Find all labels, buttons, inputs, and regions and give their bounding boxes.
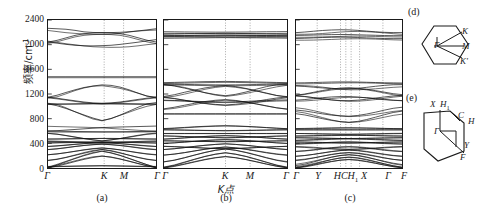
band-curve <box>296 150 402 156</box>
band-curve <box>48 143 156 147</box>
band-curve <box>48 30 156 34</box>
band-curve <box>48 28 156 32</box>
panel-b-xtick-gamma-right: Γ <box>283 170 289 181</box>
inset-e-point-c: C <box>458 110 464 120</box>
inset-e-point-h: H <box>468 116 475 126</box>
panel-a-plot <box>47 19 157 169</box>
panel-c-svg <box>296 20 402 168</box>
phonon-band-structure-figure: 频率/cm-1 2400 2000 1600 1200 800 400 0 Γ … <box>0 0 488 221</box>
y-tick-800: 800 <box>30 114 44 124</box>
band-curve <box>48 97 156 103</box>
band-curve <box>48 151 156 167</box>
inset-e-svg <box>420 105 480 169</box>
panel-c-xtick-y: Y <box>315 170 321 181</box>
panel-b-svg <box>164 20 287 168</box>
path-gamma-to-f <box>440 131 464 153</box>
band-curve <box>48 103 156 121</box>
panel-c-xtick-gamma-right: Γ <box>385 170 391 181</box>
inset-e-brillouin-zone <box>420 105 480 169</box>
inset-e-point-y: Y <box>464 140 469 150</box>
inset-d-brillouin-zone <box>418 22 480 78</box>
inset-e-caption: (e) <box>406 92 417 103</box>
panel-a-xtick-m: M <box>120 170 128 181</box>
panel-c-xtick-hch1: HCH1 <box>334 170 359 184</box>
band-curve <box>164 84 287 85</box>
panel-b-xtick-k: K <box>222 170 229 181</box>
panel-b-plot <box>163 19 288 169</box>
panel-b-caption: (b) <box>220 192 232 203</box>
band-curve <box>48 40 156 46</box>
inset-d-svg <box>418 22 480 78</box>
panel-a-svg <box>48 20 156 168</box>
panel-c-plot <box>295 19 403 169</box>
inset-d-point-k: K <box>462 26 468 36</box>
band-curve <box>296 39 402 40</box>
band-curve <box>296 31 402 34</box>
panel-c-xtick-f: F <box>401 170 407 181</box>
y-tick-400: 400 <box>30 139 44 149</box>
panel-c-xtick-x: X <box>361 170 367 181</box>
inset-d-point-kprime: K' <box>460 56 468 66</box>
band-curve <box>164 36 287 37</box>
path-gamma-to-kprime <box>437 46 462 58</box>
inset-e-point-h1: H1 <box>440 99 450 111</box>
band-curve <box>48 143 156 147</box>
inset-d-point-m: M <box>462 41 470 51</box>
y-tick-2400: 2400 <box>25 14 44 24</box>
inset-e-point-x: X <box>430 99 436 109</box>
band-curve <box>48 151 156 167</box>
band-curve <box>296 30 402 33</box>
band-curve <box>48 85 156 97</box>
inset-e-point-gamma: Γ <box>434 126 439 136</box>
band-curve <box>296 34 402 35</box>
band-curve <box>164 141 287 142</box>
y-tick-2000: 2000 <box>25 39 44 49</box>
inset-d-point-gamma: Γ <box>434 40 439 50</box>
band-curve <box>48 103 156 121</box>
band-curve <box>48 86 156 98</box>
inset-d-caption: (d) <box>408 6 420 17</box>
y-tick-1600: 1600 <box>25 64 44 74</box>
panel-b-xtick-gamma-left: Γ <box>162 170 168 181</box>
panel-a-caption: (a) <box>96 192 107 203</box>
inset-e-point-f: F <box>460 152 466 162</box>
panel-a-xtick-gamma-left: Γ <box>44 170 50 181</box>
panel-a-xtick-gamma-right: Γ <box>154 170 160 181</box>
path-gamma-to-k <box>437 32 462 46</box>
panel-c-xtick-gamma-left: Γ <box>293 170 299 181</box>
band-curve <box>296 150 402 156</box>
y-tick-1200: 1200 <box>25 89 44 99</box>
band-curve <box>48 133 156 141</box>
band-curve <box>164 153 287 168</box>
panel-b-xtick-m: M <box>246 170 254 181</box>
band-curve <box>296 112 402 123</box>
band-curve <box>48 133 156 141</box>
panel-c-caption: (c) <box>344 192 355 203</box>
band-curve <box>296 159 402 167</box>
panel-a-xtick-k: K <box>101 170 108 181</box>
